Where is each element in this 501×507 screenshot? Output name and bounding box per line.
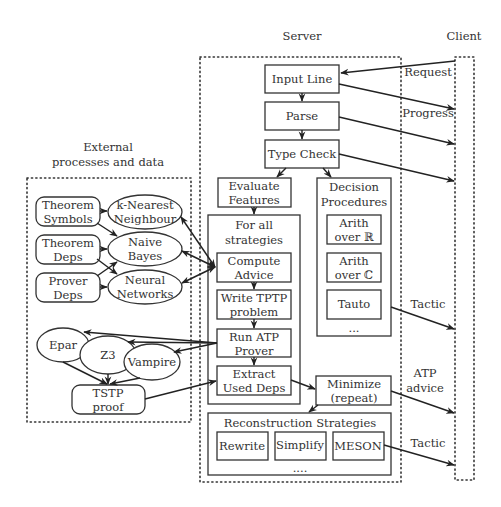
prover-deps-node: Prover Deps: [36, 273, 100, 302]
svg-text:over ℝ: over ℝ: [335, 230, 374, 244]
client-title: Client: [447, 29, 482, 43]
svg-text:Networks: Networks: [117, 287, 174, 301]
meson-node: MESON: [333, 432, 384, 460]
svg-text:proof: proof: [93, 400, 125, 414]
svg-text:Features: Features: [228, 193, 279, 207]
svg-text:Minimize: Minimize: [327, 377, 381, 391]
svg-text:Rewrite: Rewrite: [219, 439, 265, 453]
progress-label: Progress: [402, 106, 454, 120]
theorem-deps-node: Theorem Deps: [36, 235, 100, 264]
architecture-diagram: External processes and data Server Clien…: [0, 0, 501, 507]
svg-text:Vampire: Vampire: [127, 355, 177, 369]
theorem-symbols-node: Theorem Symbols: [36, 197, 100, 226]
decision-more-ellipsis: ...: [349, 321, 360, 335]
svg-text:Naive: Naive: [128, 235, 162, 249]
svg-text:Advice: Advice: [233, 268, 273, 282]
svg-text:MESON: MESON: [334, 439, 382, 453]
client-region: [455, 57, 474, 480]
request-label: Request: [404, 65, 452, 79]
svg-text:Arith: Arith: [338, 254, 369, 268]
svg-text:Evaluate: Evaluate: [228, 179, 279, 193]
svg-text:Reconstruction Strategies: Reconstruction Strategies: [224, 416, 377, 430]
svg-text:Theorem: Theorem: [42, 236, 94, 250]
server-title: Server: [283, 29, 322, 43]
svg-text:Theorem: Theorem: [42, 198, 94, 212]
input-line-node: Input Line: [265, 65, 339, 93]
svg-text:Arith: Arith: [338, 216, 369, 230]
svg-text:Simplify: Simplify: [276, 438, 324, 452]
rewrite-node: Rewrite: [217, 432, 268, 460]
type-check-node: Type Check: [265, 140, 339, 168]
svg-text:TSTP: TSTP: [93, 386, 124, 400]
vampire-node: Vampire: [124, 344, 180, 380]
svg-text:(repeat): (repeat): [331, 391, 378, 405]
svg-text:problem: problem: [230, 305, 279, 319]
knn-node: k-Nearest Neighbour: [108, 195, 182, 229]
svg-text:Type Check: Type Check: [268, 147, 337, 161]
svg-text:strategies: strategies: [225, 233, 283, 247]
tauto-node: Tauto: [327, 290, 381, 319]
svg-text:Prover: Prover: [235, 344, 274, 358]
svg-text:Epar: Epar: [49, 338, 78, 352]
external-title-line2: processes and data: [52, 155, 164, 169]
svg-text:Used Deps: Used Deps: [223, 381, 286, 395]
svg-text:Input Line: Input Line: [272, 72, 333, 86]
neural-networks-node: Neural Networks: [108, 270, 182, 304]
arith-c-node: Arith over ℂ: [327, 253, 381, 282]
simplify-node: Simplify: [275, 432, 326, 460]
svg-text:Procedures: Procedures: [321, 195, 387, 209]
svg-text:over ℂ: over ℂ: [335, 268, 374, 282]
svg-text:Decision: Decision: [329, 180, 380, 194]
svg-text:Neural: Neural: [125, 273, 166, 287]
arith-r-node: Arith over ℝ: [327, 215, 381, 244]
svg-text:Deps: Deps: [53, 250, 82, 264]
minimize-node: Minimize (repeat): [316, 376, 391, 405]
tactic-label-1: Tactic: [411, 297, 446, 311]
svg-text:Z3: Z3: [100, 348, 115, 362]
svg-text:Deps: Deps: [53, 288, 82, 302]
svg-text:Run ATP: Run ATP: [229, 330, 279, 344]
svg-text:Bayes: Bayes: [128, 249, 163, 263]
naive-bayes-node: Naive Bayes: [108, 232, 182, 266]
svg-text:Neighbour: Neighbour: [114, 212, 177, 226]
external-title-line1: External: [83, 140, 133, 154]
write-tptp-node: Write TPTP problem: [217, 290, 291, 319]
reconstruction-more-ellipsis: ....: [293, 461, 308, 475]
compute-advice-node: Compute Advice: [217, 253, 291, 282]
extract-deps-node: Extract Used Deps: [217, 366, 291, 395]
svg-text:Tauto: Tauto: [338, 297, 371, 311]
svg-text:Parse: Parse: [286, 109, 318, 123]
svg-text:k-Nearest: k-Nearest: [116, 198, 174, 212]
atp-advice-label-line1: ATP: [412, 366, 436, 380]
svg-text:Prover: Prover: [49, 274, 88, 288]
parse-node: Parse: [265, 102, 339, 130]
svg-text:Compute: Compute: [228, 254, 281, 268]
svg-text:Extract: Extract: [233, 367, 276, 381]
atp-advice-label-line2: advice: [406, 381, 444, 395]
svg-text:Symbols: Symbols: [43, 212, 92, 226]
svg-text:For all: For all: [235, 218, 273, 232]
run-atp-node: Run ATP Prover: [217, 329, 291, 358]
tactic-label-2: Tactic: [411, 436, 446, 450]
svg-text:Write TPTP: Write TPTP: [221, 291, 288, 305]
tstp-proof-node: TSTP proof: [72, 385, 145, 414]
evaluate-features-node: Evaluate Features: [218, 178, 291, 207]
